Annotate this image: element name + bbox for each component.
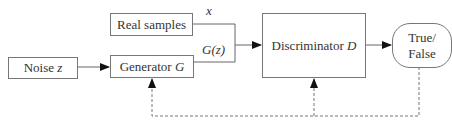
noise-label: Noise — [24, 60, 54, 76]
generator-label: Generator — [120, 59, 172, 75]
noise-node: Noise z — [8, 57, 78, 79]
generator-var: G — [175, 59, 184, 75]
discriminator-node: Discriminator D — [262, 13, 366, 78]
output-node: True/ False — [392, 23, 452, 68]
real-samples-label: Real samples — [117, 17, 186, 33]
output-line2: False — [408, 46, 435, 62]
generator-node: Generator G — [110, 55, 194, 78]
edge-label-x: x — [206, 3, 212, 19]
discriminator-label: Discriminator — [272, 38, 344, 54]
edge-label-gz: G(z) — [202, 42, 225, 58]
output-line1: True/ — [408, 30, 436, 46]
noise-var: z — [57, 60, 62, 76]
real-samples-node: Real samples — [110, 13, 193, 36]
discriminator-var: D — [347, 38, 356, 54]
